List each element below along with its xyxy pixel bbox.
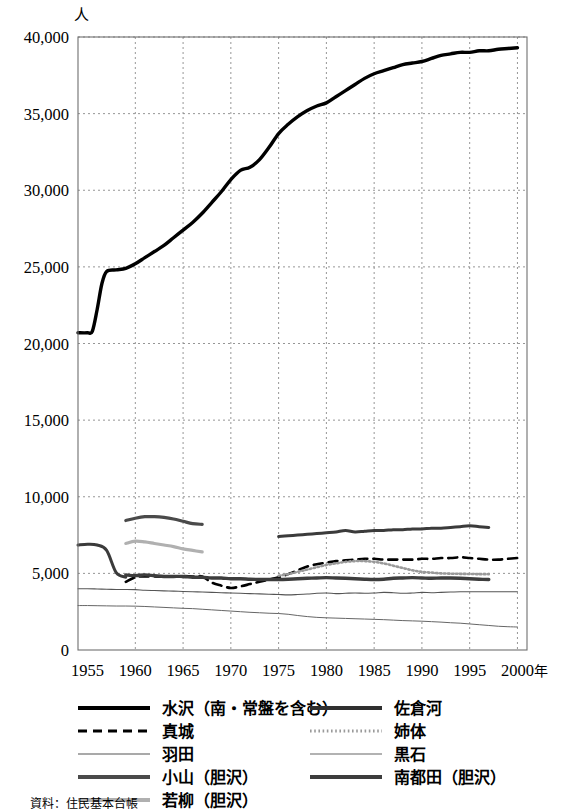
x-tick-label: 1975 <box>262 661 295 680</box>
legend-label: 佐倉河 <box>393 699 442 718</box>
legend-label: 南都田（胆沢） <box>394 768 506 787</box>
legend-label: 姉体 <box>394 722 427 741</box>
y-tick-label: 15,000 <box>24 411 69 430</box>
y-axis-tick-labels: 05,00010,00015,00020,00025,00030,00035,0… <box>24 28 69 660</box>
legend-item: 羽田 <box>78 745 194 764</box>
y-tick-label: 20,000 <box>24 335 69 354</box>
legend-item: 小山（胆沢） <box>78 768 258 787</box>
x-tick-label: 1970 <box>214 661 247 680</box>
legend-label: 小山（胆沢） <box>162 768 258 787</box>
y-axis-unit-label: 人 <box>74 6 89 24</box>
legend-label: 真城 <box>162 722 194 741</box>
x-tick-label: 1985 <box>358 661 391 680</box>
y-tick-label: 25,000 <box>24 258 69 277</box>
x-axis-unit-label: 年 <box>534 663 548 679</box>
legend-item: 水沢（南・常盤を含む） <box>78 699 338 718</box>
y-tick-label: 35,000 <box>24 105 69 124</box>
y-tick-label: 30,000 <box>24 181 69 200</box>
x-tick-label: 1960 <box>119 661 152 680</box>
x-tick-label: 1980 <box>310 661 343 680</box>
y-tick-label: 40,000 <box>24 28 69 47</box>
x-tick-label: 1965 <box>167 661 200 680</box>
legend-label: 若柳（胆沢） <box>161 791 258 810</box>
plot-area <box>78 37 527 650</box>
legend-item: 姉体 <box>310 722 427 741</box>
x-tick-label: 1955 <box>71 661 104 680</box>
y-tick-label: 10,000 <box>24 488 69 507</box>
legend-item: 真城 <box>78 722 194 741</box>
x-tick-label: 1995 <box>453 661 486 680</box>
x-tick-label: 1990 <box>405 661 438 680</box>
chart-legend: 水沢（南・常盤を含む）佐倉河真城姉体羽田黒石小山（胆沢）南都田（胆沢）若柳（胆沢… <box>78 699 506 810</box>
source-caption: 資料：住民基本台帳 <box>30 796 138 811</box>
x-tick-label: 2000 <box>501 661 534 680</box>
x-axis-tick-labels: 1955196019651970197519801985199019952000 <box>71 661 534 680</box>
y-tick-label: 5,000 <box>32 564 69 583</box>
legend-item: 南都田（胆沢） <box>310 768 506 787</box>
legend-item: 黒石 <box>310 745 426 764</box>
population-line-chart: 人 05,00010,00015,00020,00025,00030,00035… <box>0 0 565 812</box>
legend-label: 羽田 <box>162 745 194 764</box>
y-tick-label: 0 <box>61 641 69 660</box>
legend-label: 黒石 <box>394 745 426 764</box>
